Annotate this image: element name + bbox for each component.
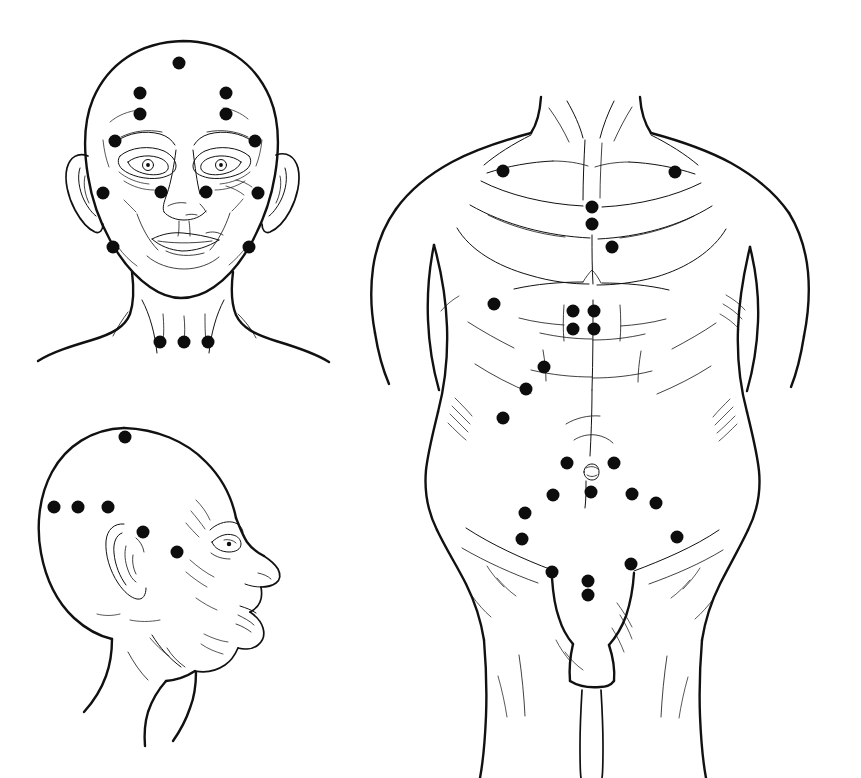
point-auricular-apex[interactable] (137, 526, 150, 539)
point-forehead-upper-left[interactable] (134, 87, 147, 100)
point-inguinal-left-upper[interactable] (516, 533, 529, 546)
point-vertex-midline[interactable] (173, 57, 186, 70)
point-sternum-middle[interactable] (586, 218, 599, 231)
panel-face-profile-lineart (39, 428, 280, 746)
point-jaw-angle-left[interactable] (107, 241, 120, 254)
point-inguinal-right-upper[interactable] (671, 531, 684, 544)
chart-canvas: Acupuncture point chart — head and anter… (0, 0, 861, 778)
point-preauricular-left[interactable] (97, 187, 110, 200)
point-occipital-anterior[interactable] (102, 501, 115, 514)
point-supraclavicular-left[interactable] (154, 336, 167, 349)
point-epigastric-paramedian-right-lower[interactable] (588, 323, 601, 336)
point-infraclavicular-right[interactable] (669, 166, 682, 179)
point-epigastric-paramedian-right-upper[interactable] (588, 305, 601, 318)
point-periumbilical-left[interactable] (561, 457, 574, 470)
point-epigastric-paramedian-left-lower[interactable] (567, 323, 580, 336)
point-forehead-lower-right[interactable] (220, 108, 233, 121)
point-supraclavicular-right[interactable] (202, 336, 215, 349)
point-pubic-upper[interactable] (582, 575, 595, 588)
face-frontal-lineart (38, 41, 329, 362)
point-jaw-angle-right[interactable] (243, 241, 256, 254)
point-periumbilical-right[interactable] (608, 457, 621, 470)
point-epigastric-paramedian-left-upper[interactable] (567, 305, 580, 318)
point-occipital-posterior[interactable] (48, 501, 61, 514)
point-occipital-middle[interactable] (72, 501, 85, 514)
panel-trunk-lineart (371, 97, 809, 778)
point-sternum-lower[interactable] (606, 241, 619, 254)
point-hypogastric-lateral-right[interactable] (650, 497, 663, 510)
point-hypogastric-midline[interactable] (585, 486, 598, 499)
panel-face-frontal (0, 0, 861, 778)
point-supraclavicular-mid[interactable] (178, 336, 191, 349)
point-forehead-upper-right[interactable] (220, 87, 233, 100)
point-hypogastric-left[interactable] (547, 489, 560, 502)
point-umbilical-lateral-left-middle[interactable] (520, 383, 533, 396)
point-umbilical-lateral-left-upper[interactable] (538, 361, 551, 374)
point-nasolabial-left[interactable] (155, 186, 168, 199)
point-preauricular-right[interactable] (252, 187, 265, 200)
point-epigastric-lateral-left[interactable] (488, 298, 501, 311)
point-flank-left[interactable] (497, 412, 510, 425)
point-pubic-lower[interactable] (582, 589, 595, 602)
point-brow-lateral-left[interactable] (109, 135, 122, 148)
point-vertex-lateral[interactable] (119, 431, 132, 444)
point-cheek-lateral[interactable] (171, 546, 184, 559)
point-brow-lateral-right[interactable] (249, 135, 262, 148)
point-infraclavicular-left[interactable] (497, 165, 510, 178)
point-forehead-lower-left[interactable] (134, 108, 147, 121)
point-sternum-upper[interactable] (586, 201, 599, 214)
point-inguinal-right-lower[interactable] (625, 558, 638, 571)
point-hypogastric-right[interactable] (626, 488, 639, 501)
point-iliac-left[interactable] (519, 507, 532, 520)
point-inguinal-left-lower[interactable] (546, 566, 559, 579)
point-nasolabial-right[interactable] (200, 186, 213, 199)
